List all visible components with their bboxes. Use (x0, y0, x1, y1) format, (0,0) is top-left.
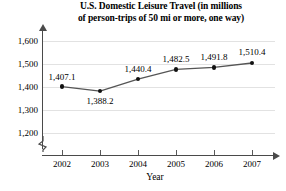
x-tick-mark-2002 (62, 150, 63, 155)
x-tick-mark-2007 (252, 150, 253, 155)
y-tick-label-1200: 1,200 (2, 129, 38, 138)
x-axis-title: Year (122, 172, 188, 182)
chart-title-line-1: U.S. Domestic Leisure Travel (in million… (40, 1, 282, 13)
data-point-2002 (60, 84, 65, 89)
x-axis-line (42, 155, 274, 156)
x-axis-arrow-icon (273, 152, 280, 160)
chart-figure: U.S. Domestic Leisure Travel (in million… (0, 0, 286, 191)
gridline-1400 (42, 87, 275, 88)
y-tick-label-1400: 1,400 (2, 83, 38, 92)
gridline-1600 (42, 41, 275, 42)
y-axis-line (42, 30, 43, 149)
chart-title-line-2: of person-trips of 50 mi or more, one wa… (40, 13, 282, 25)
x-tick-label-2006: 2006 (197, 159, 231, 169)
data-label-2004: 1,440.4 (116, 65, 160, 74)
x-tick-mark-2003 (100, 150, 101, 155)
data-label-2003: 1,388.2 (78, 97, 122, 106)
y-tick-label-1300: 1,300 (2, 106, 38, 115)
y-tick-label-1600: 1,600 (2, 37, 38, 46)
x-tick-mark-2006 (214, 150, 215, 155)
x-tick-label-2003: 2003 (83, 159, 117, 169)
data-label-2002: 1,407.1 (40, 73, 84, 82)
gridline-1200 (42, 133, 275, 134)
gridline-1300 (42, 110, 275, 111)
data-label-2007: 1,510.4 (230, 48, 274, 57)
data-point-2005 (174, 67, 179, 72)
x-tick-label-2007: 2007 (235, 159, 269, 169)
x-tick-label-2002: 2002 (45, 159, 79, 169)
data-point-2004 (136, 77, 141, 82)
x-tick-mark-2005 (176, 150, 177, 155)
data-point-2006 (212, 65, 217, 70)
chart-title: U.S. Domestic Leisure Travel (in million… (40, 1, 282, 24)
x-tick-mark-2004 (138, 150, 139, 155)
data-point-2003 (98, 89, 103, 94)
x-tick-label-2005: 2005 (159, 159, 193, 169)
x-tick-label-2004: 2004 (121, 159, 155, 169)
y-tick-label-1500: 1,500 (2, 60, 38, 69)
axis-break-icon (37, 136, 49, 152)
